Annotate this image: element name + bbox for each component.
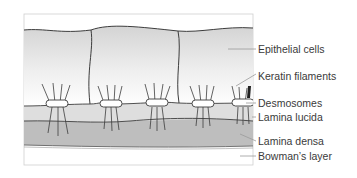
label-epithelial-cells: Epithelial cells [258,43,325,55]
label-lamina-densa: Lamina densa [258,135,324,147]
label-lamina-lucida: Lamina lucida [258,111,323,123]
epithelial-cells [24,26,253,106]
label-bowmans-layer: Bowman’s layer [258,150,332,162]
label-keratin-filaments: Keratin filaments [258,70,336,82]
label-desmosomes: Desmosomes [258,97,322,109]
